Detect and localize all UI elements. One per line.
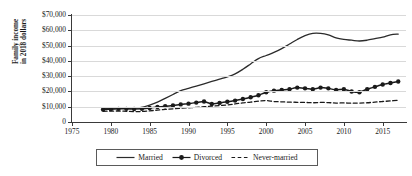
gridline (72, 91, 406, 92)
x-tick-label: 2000 (246, 128, 286, 136)
data-point-marker (396, 79, 400, 83)
legend-swatch-divorced-icon (172, 153, 191, 162)
x-tick-label: 1995 (207, 128, 247, 136)
x-tick-label: 2010 (324, 128, 364, 136)
legend-swatch-never-married-icon (231, 153, 250, 162)
x-tick-mark (72, 122, 73, 126)
plot-area (72, 15, 406, 122)
legend-label-divorced: Divorced (194, 153, 222, 162)
legend-swatch-married-icon (116, 153, 135, 162)
x-tick-label: 1985 (130, 128, 170, 136)
y-tick-mark (68, 15, 72, 16)
data-point-marker (217, 101, 221, 105)
data-point-marker (373, 85, 377, 89)
x-tick-label: 1975 (52, 128, 92, 136)
x-tick-mark (150, 122, 151, 126)
data-point-marker (248, 95, 252, 99)
y-tick-label: $20,000 (42, 87, 66, 95)
y-tick-label: $60,000 (42, 26, 66, 34)
data-point-marker (241, 97, 245, 101)
y-tick-mark (68, 30, 72, 31)
data-point-marker (194, 100, 198, 104)
y-tick-label: $40,000 (42, 57, 66, 65)
x-tick-mark (266, 122, 267, 126)
legend-item-divorced[interactable]: Divorced (172, 153, 222, 162)
data-point-marker (202, 99, 206, 103)
y-tick-mark (68, 76, 72, 77)
x-tick-mark (344, 122, 345, 126)
data-point-marker (225, 100, 229, 104)
x-tick-label: 2015 (363, 128, 403, 136)
y-tick-label: 0 (62, 118, 66, 126)
gridline (72, 76, 406, 77)
x-tick-mark (305, 122, 306, 126)
x-tick-mark (111, 122, 112, 126)
y-tick-mark (68, 91, 72, 92)
x-tick-label: 1990 (169, 128, 209, 136)
family-income-line-chart: Family income in 2018 dollars 0$10,000$2… (0, 0, 412, 176)
data-point-marker (381, 82, 385, 86)
data-point-marker (295, 85, 299, 89)
y-tick-mark (68, 61, 72, 62)
legend-label-never-married: Never-married (253, 153, 298, 162)
data-point-marker (186, 101, 190, 105)
legend-item-never-married[interactable]: Never-married (231, 153, 298, 162)
gridline (72, 30, 406, 31)
data-point-marker (318, 85, 322, 89)
data-point-marker (326, 86, 330, 90)
y-tick-label: $10,000 (42, 103, 66, 111)
data-point-marker (256, 93, 260, 97)
y-tick-label: $70,000 (42, 11, 66, 19)
legend-label-married: Married (138, 153, 162, 162)
x-tick-mark (227, 122, 228, 126)
y-tick-label: $50,000 (42, 42, 66, 50)
gridline (72, 46, 406, 47)
data-point-marker (388, 81, 392, 85)
x-tick-label: 2005 (285, 128, 325, 136)
gridline (72, 107, 406, 108)
gridline (72, 15, 406, 16)
data-point-marker (233, 98, 237, 102)
y-tick-mark (68, 107, 72, 108)
x-tick-mark (189, 122, 190, 126)
x-tick-mark (383, 122, 384, 126)
chart-legend: Married Divorced Never-married (96, 149, 318, 166)
x-axis-line (71, 122, 407, 123)
gridline (72, 61, 406, 62)
legend-item-married[interactable]: Married (116, 153, 162, 162)
y-axis-title: Family income in 2018 dollars (12, 0, 29, 86)
y-axis-title-line-2: in 2018 dollars (20, 0, 28, 86)
y-tick-label: $30,000 (42, 72, 66, 80)
x-tick-label: 1980 (91, 128, 131, 136)
data-point-marker (303, 86, 307, 90)
y-tick-mark (68, 46, 72, 47)
y-axis-title-line-1: Family income (12, 0, 20, 86)
